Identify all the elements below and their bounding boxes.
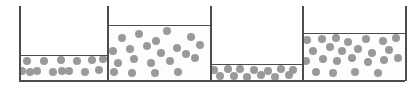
particle [143, 42, 151, 50]
left-outer-wall [19, 6, 21, 81]
particle [351, 68, 359, 76]
particle [126, 45, 134, 53]
particle [319, 55, 327, 63]
particle [49, 68, 57, 76]
containers-group [0, 0, 418, 88]
particle [191, 54, 199, 62]
particle [243, 73, 251, 80]
particle [338, 47, 346, 55]
particle [216, 72, 224, 80]
divider-wall-3-4 [302, 6, 304, 81]
particle [174, 68, 182, 76]
particle [354, 45, 362, 53]
particle [135, 30, 143, 38]
container-bottom-3 [210, 80, 302, 82]
particle [166, 57, 174, 65]
particle [147, 59, 155, 67]
particle [88, 56, 96, 64]
particle [65, 67, 73, 75]
particle [309, 47, 317, 55]
particle [374, 69, 382, 77]
particle [277, 65, 285, 73]
particle [326, 43, 334, 51]
particle [230, 72, 238, 80]
particle [333, 57, 341, 65]
particle [362, 35, 370, 43]
particle [379, 37, 387, 45]
container-bottom-4 [302, 80, 405, 82]
particle [257, 71, 265, 79]
particle [173, 44, 181, 52]
particle [26, 68, 34, 76]
particle-containers-diagram [0, 0, 418, 88]
particle [157, 49, 165, 57]
fill-region-3 [210, 64, 302, 80]
particle [151, 69, 159, 77]
particle [385, 46, 393, 54]
particle [99, 55, 107, 63]
divider-wall-2-3 [210, 6, 212, 81]
particle [394, 54, 402, 62]
particle [348, 54, 356, 62]
particle [187, 33, 195, 41]
right-outer-wall [405, 6, 407, 81]
particle [163, 27, 171, 35]
fill-region-4 [302, 33, 405, 80]
particle [118, 34, 126, 42]
particle [344, 38, 352, 46]
particle [329, 69, 337, 77]
particle [114, 59, 122, 67]
particle [380, 56, 388, 64]
container-bottom-2 [107, 80, 210, 82]
divider-wall-1-2 [107, 6, 109, 81]
particle [236, 65, 244, 73]
particle [312, 68, 320, 76]
particle [81, 68, 89, 76]
particle [152, 37, 160, 45]
particle [303, 36, 311, 44]
particle [332, 34, 340, 42]
particle [130, 55, 138, 63]
particle [33, 67, 41, 75]
particle [128, 69, 136, 77]
particle [392, 34, 400, 42]
particle [364, 58, 372, 66]
particle [318, 35, 326, 43]
particle [196, 41, 204, 49]
fill-region-2 [107, 25, 210, 80]
particle [285, 71, 293, 79]
particle [73, 57, 81, 65]
particle [23, 57, 31, 65]
particle [182, 50, 190, 58]
particle [271, 73, 279, 80]
particle [58, 67, 66, 75]
fill-region-1 [19, 55, 107, 80]
particle [95, 66, 103, 74]
container-bottom-1 [19, 80, 107, 82]
particle [110, 68, 118, 76]
particle [368, 49, 376, 57]
particle [109, 47, 117, 55]
particle [57, 56, 65, 64]
particle [40, 57, 48, 65]
